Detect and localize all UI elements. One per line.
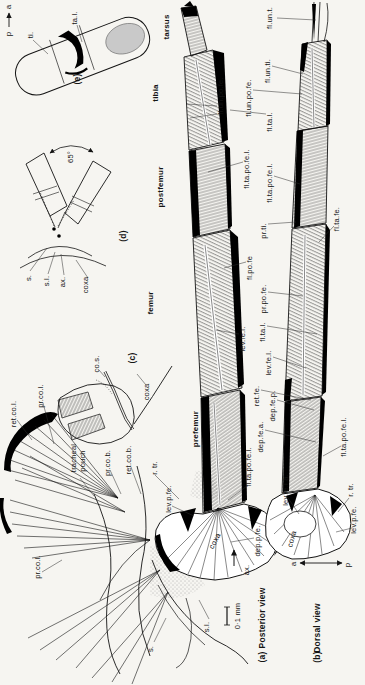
leg-b-drawing	[266, 2, 351, 559]
panel-e-caption: (e)	[73, 74, 82, 85]
ti-label: ti.	[27, 32, 35, 38]
panel-d-drawing	[20, 146, 111, 268]
panel-e-drawing	[6, 3, 155, 101]
ret-co-b-label: ret.co.b.	[125, 446, 133, 475]
r-tr-label-b: r. tr.	[347, 483, 355, 497]
panel-c-caption: (c)	[128, 353, 137, 364]
axis-p-label-e: p	[5, 32, 13, 37]
ret-co-l-label: ret.co.l.	[10, 401, 18, 427]
lev-p-fe-label-a: lev.p.fe.	[165, 485, 173, 513]
ta-l-label: ta.l.	[71, 11, 79, 24]
pr-ti-label: pr.ti.	[260, 223, 268, 238]
femur-label: femur	[147, 291, 155, 314]
fl-un-t-label: fl.un.t.	[266, 7, 274, 29]
pr-co-l-label-2: pr.co.l.	[34, 555, 42, 579]
s-l-label-d: s.l.	[43, 276, 51, 286]
scale-bar	[224, 607, 230, 625]
panel-d-caption: (d)	[119, 230, 128, 241]
prefemur-label: prefemur	[192, 411, 200, 447]
tibia-label: tibia	[152, 84, 160, 101]
pr-co-l-label-1: pr.co.l.	[37, 384, 45, 408]
fl-ta-l-label-1: fl.ta.l.	[266, 112, 274, 132]
lev-fe-l-a-label: lev.fe.l.a.	[282, 474, 290, 506]
co-s-label: co.s.	[93, 356, 101, 373]
dep-p-fe-label: dep.p.fe.	[254, 526, 262, 557]
axis-p-label-b: p	[344, 563, 352, 568]
ax-label-d: ax.	[59, 277, 67, 288]
fl-ta-po-fe-l-label-3: fl.ta.po.fe.l.	[245, 447, 253, 487]
fl-ta-po-fe-l-label-4: fl.ta.po.fe.l.	[340, 417, 348, 457]
fl-un-po-fe-label-a: fl.un.po.fe.	[217, 77, 225, 114]
panel-b-tag: (b)	[313, 651, 322, 662]
panel-b-view-label: Dorsal view	[313, 603, 322, 652]
coxa-label-d: coxa	[82, 277, 90, 294]
fl-ta-fe-label: fl.ta.fe.	[333, 207, 341, 231]
dep-fe-p-label: dep.fe.p.	[269, 391, 277, 422]
coxa-label-c: coxa	[143, 384, 151, 401]
lev-fe-l-label-a: lev.fe.l.	[239, 326, 247, 351]
panel-a-view-label: Posterior view	[258, 588, 267, 649]
s-label-d: s.	[25, 275, 33, 281]
postfemur-label: postfemur	[157, 167, 165, 208]
fl-ta-po-fe-l-label-1: fl.ta.po.fe.l.	[243, 149, 251, 189]
figure-page: a p ti. ta.l. (e) tarsus tibia postfemur…	[0, 0, 365, 685]
figure-artwork	[0, 0, 365, 685]
tracheal-pouch-label-1: tracheal	[70, 444, 78, 472]
panel-c-drawing	[58, 366, 172, 444]
fl-ta-po-fe-l-label-2: fl.ta.po.fe.l.	[266, 163, 274, 203]
panel-a-tag: (a)	[258, 652, 267, 663]
dep-fe-a-label: dep.fe.a.	[257, 422, 265, 453]
fl-un-po-fe-label-b: fl.un.po.fe.	[245, 79, 253, 116]
tracheal-pouch-label-2: pouch	[79, 450, 87, 471]
pr-po-fe-label: pr.po.fe.	[260, 285, 268, 314]
axis-a-label-e: a	[5, 5, 13, 10]
lev-fe-l-label-b: lev.fe.l.	[265, 350, 273, 375]
s-l-label-a: s.l.	[203, 622, 211, 632]
angle-65-label: 65°	[67, 151, 75, 163]
pr-co-b-label: pr.co.b.	[104, 450, 112, 476]
lev-p-fe-label-b: lev.p.fe.	[350, 506, 358, 534]
fl-po-fe-label: fl.po.fe	[246, 256, 254, 280]
scale-bar-label: 0·1 mm	[234, 603, 242, 630]
fl-un-ti-label: fl.un.ti.	[264, 59, 272, 83]
s-label-a: s.	[147, 646, 155, 652]
tarsus-label: tarsus	[163, 14, 171, 39]
fl-ta-l-label-2: fl.ta.l.	[259, 322, 267, 342]
axis-a-label-b: a	[290, 562, 298, 567]
ret-fe-label: ret.fe.	[253, 386, 261, 407]
ax-label-a: ax.	[243, 565, 251, 576]
r-tr-label-a: r. tr.	[151, 461, 159, 475]
